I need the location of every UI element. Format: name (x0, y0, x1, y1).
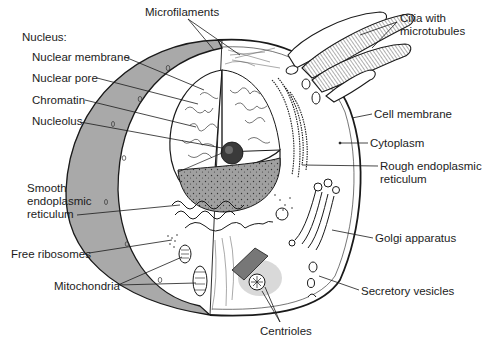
label-rough-er-line2: reticulum (380, 173, 482, 186)
label-chromatin: Chromatin (32, 94, 85, 107)
nucleus (170, 70, 280, 212)
label-smooth-er-line1: Smooth (27, 182, 92, 195)
label-cilia: Cilia with microtubules (400, 12, 465, 38)
label-nuclear-membrane: Nuclear membrane (32, 51, 130, 64)
label-cell-membrane: Cell membrane (374, 108, 452, 121)
nucleolus-body (221, 142, 243, 164)
label-centrioles: Centrioles (260, 325, 312, 338)
centrioles-organelles (232, 248, 282, 296)
animal-cell-diagram: Microfilaments Nucleus: Nuclear membrane… (0, 0, 490, 348)
label-rough-er: Rough endoplasmic reticulum (380, 160, 482, 186)
label-nuclear-pore: Nuclear pore (32, 72, 98, 85)
label-cilia-line2: microtubules (400, 25, 465, 38)
label-free-ribosomes: Free ribosomes (11, 248, 91, 261)
label-microfilaments: Microfilaments (145, 6, 219, 19)
label-secretory-vesicles: Secretory vesicles (361, 285, 454, 298)
golgi-apparatus (289, 179, 340, 250)
secretory-vesicles-organelles (308, 262, 318, 297)
label-rough-er-line1: Rough endoplasmic (380, 160, 482, 173)
label-nucleolus: Nucleolus (32, 115, 83, 128)
label-cilia-line1: Cilia with (400, 12, 465, 25)
label-mitochondria: Mitochondria (54, 280, 120, 293)
label-smooth-er-line3: reticulum (27, 208, 92, 221)
label-nucleus-heading: Nucleus: (22, 31, 67, 44)
label-smooth-er: Smooth endoplasmic reticulum (27, 182, 92, 221)
label-golgi-apparatus: Golgi apparatus (375, 232, 456, 245)
mitochondria-organelles (179, 245, 207, 296)
label-smooth-er-line2: endoplasmic (27, 195, 92, 208)
label-cytoplasm: Cytoplasm (370, 137, 424, 150)
